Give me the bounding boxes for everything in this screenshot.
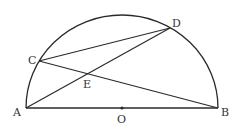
label-O: O [117,113,126,126]
label-B: B [221,106,229,119]
segment-CB [39,61,218,108]
label-D: D [172,17,181,30]
center-point-O [120,106,123,109]
diagram-canvas: A B O C D E [0,0,240,127]
segment-CD [39,28,170,61]
label-C: C [28,54,36,67]
semicircle-arc [26,15,218,108]
label-A: A [12,106,22,119]
label-E: E [83,78,91,91]
geometry-diagram: A B O C D E [0,0,240,127]
segment-AD [26,28,170,108]
